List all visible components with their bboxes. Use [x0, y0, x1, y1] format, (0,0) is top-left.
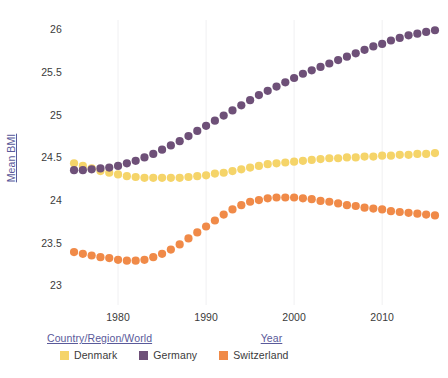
data-point[interactable]	[334, 199, 342, 207]
data-point[interactable]	[114, 170, 122, 178]
data-point[interactable]	[237, 165, 245, 173]
data-point[interactable]	[193, 228, 201, 236]
data-point[interactable]	[149, 174, 157, 182]
data-point[interactable]	[369, 42, 377, 50]
data-point[interactable]	[343, 53, 351, 61]
data-point[interactable]	[149, 253, 157, 261]
data-point[interactable]	[431, 149, 439, 157]
data-point[interactable]	[114, 162, 122, 170]
data-point[interactable]	[404, 31, 412, 39]
data-point[interactable]	[105, 164, 113, 172]
data-point[interactable]	[167, 245, 175, 253]
data-point[interactable]	[255, 162, 263, 170]
data-point[interactable]	[123, 257, 131, 265]
data-point[interactable]	[70, 248, 78, 256]
data-point[interactable]	[220, 210, 228, 218]
data-point[interactable]	[237, 201, 245, 209]
data-point[interactable]	[211, 169, 219, 177]
data-point[interactable]	[334, 154, 342, 162]
data-point[interactable]	[140, 256, 148, 264]
data-point[interactable]	[96, 253, 104, 261]
data-point[interactable]	[149, 150, 157, 158]
legend-item-switzerland[interactable]: Switzerland	[219, 350, 288, 361]
data-point[interactable]	[228, 106, 236, 114]
data-point[interactable]	[299, 70, 307, 78]
data-point[interactable]	[246, 164, 254, 172]
data-point[interactable]	[255, 196, 263, 204]
data-point[interactable]	[123, 159, 131, 167]
data-point[interactable]	[352, 49, 360, 57]
data-point[interactable]	[272, 82, 280, 90]
data-point[interactable]	[404, 209, 412, 217]
data-point[interactable]	[325, 154, 333, 162]
data-point[interactable]	[193, 127, 201, 135]
data-point[interactable]	[413, 30, 421, 38]
data-point[interactable]	[413, 210, 421, 218]
data-point[interactable]	[264, 160, 272, 168]
data-point[interactable]	[316, 63, 324, 71]
data-point[interactable]	[290, 74, 298, 82]
data-point[interactable]	[290, 158, 298, 166]
data-point[interactable]	[184, 173, 192, 181]
data-point[interactable]	[413, 150, 421, 158]
data-point[interactable]	[396, 208, 404, 216]
data-point[interactable]	[79, 250, 87, 258]
data-point[interactable]	[431, 211, 439, 219]
data-point[interactable]	[299, 157, 307, 165]
data-point[interactable]	[132, 173, 140, 181]
data-point[interactable]	[237, 101, 245, 109]
data-point[interactable]	[158, 174, 166, 182]
data-point[interactable]	[184, 132, 192, 140]
data-point[interactable]	[308, 66, 316, 74]
data-point[interactable]	[422, 28, 430, 36]
data-point[interactable]	[132, 157, 140, 165]
data-point[interactable]	[360, 46, 368, 54]
data-point[interactable]	[360, 204, 368, 212]
data-point[interactable]	[316, 155, 324, 163]
data-point[interactable]	[308, 156, 316, 164]
data-point[interactable]	[70, 166, 78, 174]
data-point[interactable]	[220, 111, 228, 119]
data-point[interactable]	[316, 197, 324, 205]
data-point[interactable]	[79, 166, 87, 174]
data-point[interactable]	[123, 172, 131, 180]
data-point[interactable]	[352, 202, 360, 210]
data-point[interactable]	[193, 172, 201, 180]
data-point[interactable]	[211, 216, 219, 224]
data-point[interactable]	[228, 167, 236, 175]
data-point[interactable]	[343, 201, 351, 209]
data-point[interactable]	[88, 165, 96, 173]
data-point[interactable]	[290, 193, 298, 201]
data-point[interactable]	[255, 91, 263, 99]
data-point[interactable]	[132, 257, 140, 265]
data-point[interactable]	[431, 26, 439, 34]
data-point[interactable]	[202, 222, 210, 230]
data-point[interactable]	[167, 174, 175, 182]
data-point[interactable]	[246, 198, 254, 206]
data-point[interactable]	[396, 34, 404, 42]
data-point[interactable]	[378, 152, 386, 160]
data-point[interactable]	[158, 250, 166, 258]
data-point[interactable]	[114, 256, 122, 264]
data-point[interactable]	[272, 159, 280, 167]
data-point[interactable]	[202, 122, 210, 130]
data-point[interactable]	[167, 141, 175, 149]
data-point[interactable]	[88, 251, 96, 259]
data-point[interactable]	[184, 234, 192, 242]
data-point[interactable]	[246, 96, 254, 104]
data-point[interactable]	[325, 59, 333, 67]
data-point[interactable]	[378, 40, 386, 48]
data-point[interactable]	[378, 205, 386, 213]
data-point[interactable]	[422, 150, 430, 158]
data-point[interactable]	[272, 193, 280, 201]
data-point[interactable]	[352, 153, 360, 161]
data-point[interactable]	[308, 195, 316, 203]
data-point[interactable]	[105, 254, 113, 262]
data-point[interactable]	[387, 36, 395, 44]
data-point[interactable]	[211, 117, 219, 125]
data-point[interactable]	[228, 205, 236, 213]
data-point[interactable]	[176, 174, 184, 182]
data-point[interactable]	[343, 153, 351, 161]
data-point[interactable]	[422, 210, 430, 218]
data-point[interactable]	[176, 240, 184, 248]
